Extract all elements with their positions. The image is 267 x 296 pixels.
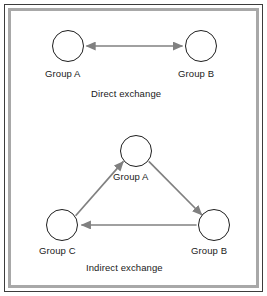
caption-direct-exchange: Direct exchange xyxy=(91,88,161,99)
node-circle-group-c-indirect xyxy=(46,209,78,241)
node-label-group-a-indirect: Group A xyxy=(113,171,149,182)
node-circle-group-b-direct xyxy=(185,30,217,62)
arrow-indirect-c-to-a xyxy=(76,161,124,215)
caption-indirect-exchange: Indirect exchange xyxy=(86,262,163,273)
exchange-diagram-figure: Group A Group B Direct exchange Group A … xyxy=(0,0,267,296)
node-label-group-b-direct: Group B xyxy=(178,68,214,79)
node-circle-group-b-indirect xyxy=(198,209,230,241)
node-label-group-b-indirect: Group B xyxy=(191,245,227,256)
arrow-indirect-a-to-b xyxy=(149,161,202,215)
node-circle-group-a-indirect xyxy=(120,135,152,167)
node-label-group-a-direct: Group A xyxy=(45,68,81,79)
node-label-group-c-indirect: Group C xyxy=(39,245,76,256)
node-circle-group-a-direct xyxy=(52,30,84,62)
